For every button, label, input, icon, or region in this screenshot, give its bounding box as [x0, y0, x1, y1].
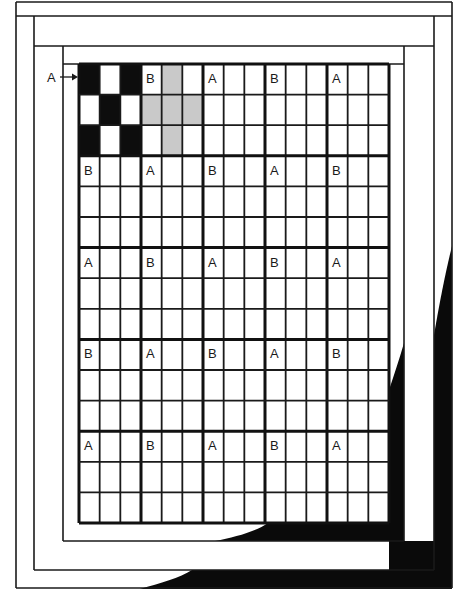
gray-cell	[141, 95, 162, 126]
dark-cell	[79, 125, 100, 156]
gray-cell	[162, 64, 183, 95]
shadow-bottom-outer	[140, 570, 452, 589]
arrowhead-icon	[72, 74, 78, 81]
block-label: B	[270, 71, 279, 86]
block-label: A	[84, 438, 93, 453]
block-label: A	[270, 346, 279, 361]
block-label: A	[84, 255, 93, 270]
block-label: B	[84, 346, 93, 361]
block-label: B	[208, 163, 217, 178]
dark-cell	[120, 125, 141, 156]
block-label: B	[332, 346, 341, 361]
block-label: B	[270, 255, 279, 270]
dark-cell	[120, 64, 141, 95]
shadow-between	[404, 541, 434, 543]
shadow-bottom-inner	[215, 523, 404, 541]
block-label: A	[270, 163, 279, 178]
shadow-right-inner	[389, 343, 404, 541]
block-label: B	[146, 255, 155, 270]
block-label: B	[146, 71, 155, 86]
shadow-right-outer	[434, 246, 452, 589]
shadow-layer	[140, 246, 452, 589]
block-label: A	[146, 163, 155, 178]
block-grid: BABABABABABABABABABABABA	[79, 64, 389, 523]
block-label: B	[208, 346, 217, 361]
gray-cell	[162, 95, 183, 126]
dark-cell	[79, 64, 100, 95]
block-label: B	[84, 163, 93, 178]
block-label: B	[146, 438, 155, 453]
block-label: B	[332, 163, 341, 178]
block-label: A	[332, 438, 341, 453]
block-label: A	[208, 438, 217, 453]
block-label: A	[332, 255, 341, 270]
callout-label: A	[47, 70, 56, 85]
dark-cell	[100, 95, 121, 126]
block-label: B	[270, 438, 279, 453]
shadow-corner	[389, 523, 434, 570]
block-label: A	[332, 71, 341, 86]
gray-cell	[182, 95, 203, 126]
shadow-right-strip-lower	[434, 541, 452, 589]
block-label: A	[208, 255, 217, 270]
quilt-diagram: BABABABABABABABABABABABA A	[0, 0, 465, 593]
gray-cell	[162, 125, 183, 156]
block-label: A	[146, 346, 155, 361]
block-label: A	[208, 71, 217, 86]
